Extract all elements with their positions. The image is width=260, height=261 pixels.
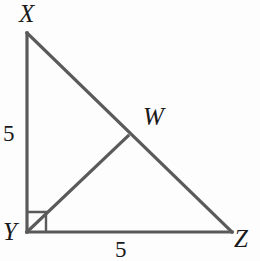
vertex-label-x: X — [19, 1, 34, 26]
segment-yw — [27, 136, 128, 232]
measure-label-yz: 5 — [115, 238, 127, 261]
vertex-label-y: Y — [3, 219, 17, 244]
point-label-w: W — [143, 104, 164, 129]
geometry-figure: X W Y Z 5 5 — [0, 0, 260, 261]
measure-label-xy: 5 — [3, 122, 15, 145]
triangle-diagram-svg — [0, 0, 260, 261]
vertex-label-z: Z — [234, 226, 248, 251]
